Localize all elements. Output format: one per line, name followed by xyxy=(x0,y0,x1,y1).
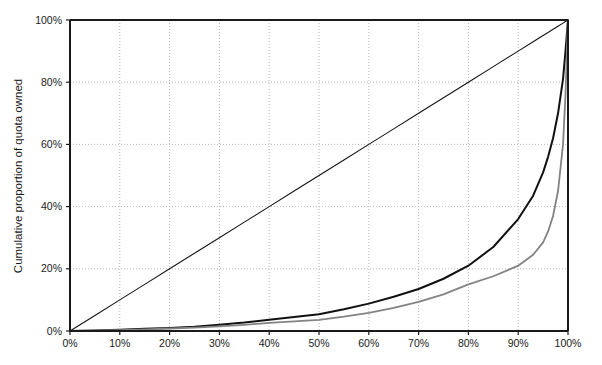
x-tick-label: 0% xyxy=(62,337,77,349)
x-tick-label: 20% xyxy=(159,337,180,349)
x-tick-label: 50% xyxy=(308,337,329,349)
x-tick-label: 70% xyxy=(408,337,429,349)
y-tick-label: 60% xyxy=(41,138,62,150)
y-axis-title: Cumulative proportion of quota owned xyxy=(12,79,24,273)
y-tick-label: 80% xyxy=(41,76,62,88)
y-tick-label: 20% xyxy=(41,262,62,274)
y-tick-label: 40% xyxy=(41,200,62,212)
y-tick-label: 0% xyxy=(47,325,62,337)
x-tick-label: 60% xyxy=(358,337,379,349)
x-tick-label: 40% xyxy=(259,337,280,349)
x-tick-label: 90% xyxy=(508,337,529,349)
x-tick-label: 100% xyxy=(555,337,582,349)
x-tick-label: 10% xyxy=(109,337,130,349)
chart-canvas: 0%10%20%30%40%50%60%70%80%90%100% 0%20%4… xyxy=(0,0,602,365)
y-tick-label: 100% xyxy=(35,14,62,26)
x-tick-label: 80% xyxy=(458,337,479,349)
x-tick-label: 30% xyxy=(209,337,230,349)
lorenz-curve-chart: 0%10%20%30%40%50%60%70%80%90%100% 0%20%4… xyxy=(0,0,602,365)
